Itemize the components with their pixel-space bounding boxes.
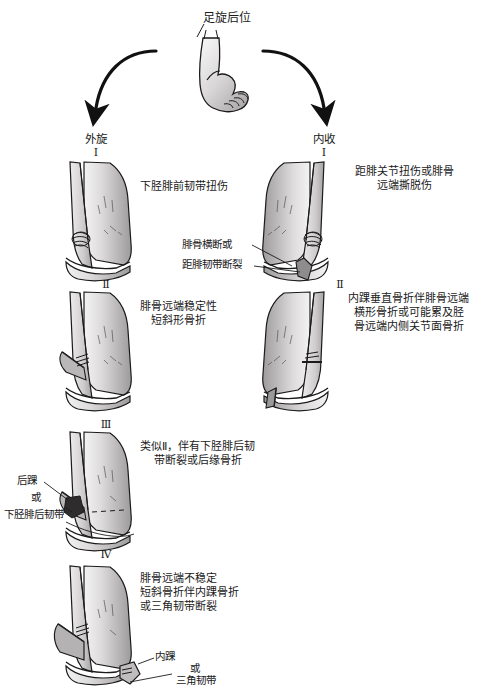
left-stage-3-roman: Ⅲ <box>96 418 116 431</box>
callout-fibula-transverse: 腓骨横断或 <box>182 238 232 251</box>
right-stage-2-roman: Ⅱ <box>330 278 350 291</box>
foot-supination-illustration <box>197 24 248 112</box>
branch-label-adduction: 内收 <box>300 130 348 146</box>
ankle-fracture-classification-diagram: 足旋后位 外旋 Ⅰ 内收 Ⅰ 下胫腓前韧带扭伤 Ⅱ 腓骨远端稳定性 短斜形骨折 … <box>0 0 487 694</box>
right-stage-1-roman: Ⅰ <box>300 146 348 159</box>
branch-label-external-rotation: 外旋 <box>72 130 120 146</box>
ankle-illustration-left-stage-1 <box>66 162 131 281</box>
callout-talofibular-rupture: 距腓韧带断裂 <box>182 258 242 271</box>
page-title: 足旋后位 <box>203 8 251 25</box>
callout-deltoid-ligament: 三角韧带 <box>176 674 216 687</box>
ankle-illustration-right-stage-1 <box>252 162 328 281</box>
ankle-illustration-right-stage-2 <box>263 292 328 411</box>
ankle-illustration-left-stage-2 <box>60 292 131 411</box>
diagram-artwork <box>0 0 487 694</box>
left-stage-1-roman: Ⅰ <box>72 146 120 159</box>
ankle-illustration-left-stage-3 <box>44 432 134 551</box>
left-stage-4-roman: Ⅳ <box>96 548 116 561</box>
right-stage-1-description: 距腓关节扭伤或腓骨 远端撕脱伤 <box>355 165 454 193</box>
arrow-adduction <box>263 51 324 108</box>
callout-medial-malleolus: 内踝 <box>155 650 175 663</box>
left-stage-2-roman: Ⅱ <box>96 278 116 291</box>
callout-or-1: 或 <box>31 491 41 504</box>
left-stage-4-description: 腓骨远端不稳定 短斜骨折伴内踝骨折 或三角韧带断裂 <box>140 572 239 614</box>
right-stage-2-description: 内踝垂直骨折伴腓骨远端 横形骨折或可能累及胫 骨远端内侧关节面骨折 <box>348 292 469 334</box>
left-stage-2-description: 腓骨远端稳定性 短斜形骨折 <box>140 300 217 328</box>
arrow-external-rotation <box>96 51 156 108</box>
left-stage-1-description: 下胫腓前韧带扭伤 <box>140 180 228 194</box>
callout-posterior-tibiofibular-ligament: 下胫腓后韧带 <box>4 508 64 521</box>
callout-posterior-malleolus: 后踝 <box>17 474 37 487</box>
left-stage-3-description: 类似Ⅱ，伴有下胫腓后韧 带断裂或后缘骨折 <box>140 440 255 468</box>
